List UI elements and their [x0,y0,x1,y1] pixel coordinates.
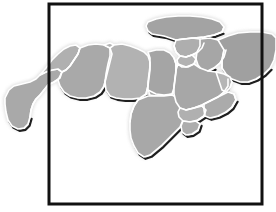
region-egypt [148,50,176,96]
map-canvas [0,0,276,212]
map-figure [0,0,276,212]
